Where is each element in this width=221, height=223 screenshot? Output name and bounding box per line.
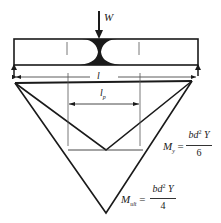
span-label: l [97, 71, 100, 81]
load-arrow-icon [95, 11, 103, 39]
plastic-length-label: lp [100, 88, 106, 98]
yield-moment-fraction: bd2 Y 6 [186, 130, 212, 162]
diagram-graphics [0, 0, 221, 223]
ultimate-moment-fraction: bd2 Y 4 [150, 184, 176, 216]
span-dimension [16, 75, 196, 79]
ultimate-moment-symbol: Mult = [121, 194, 145, 205]
right-support-icon [195, 64, 201, 76]
left-support-icon [11, 64, 17, 76]
yield-moment-symbol: My = [163, 141, 184, 152]
beam-diagram: W l lp My = bd2 Y 6 Mult = bd2 Y 4 [0, 0, 221, 223]
moment-baseline [15, 81, 192, 83]
load-label: W [104, 12, 113, 23]
plastic-zone [80, 39, 120, 65]
beam [14, 39, 198, 65]
plastic-length-dimension [69, 102, 139, 106]
